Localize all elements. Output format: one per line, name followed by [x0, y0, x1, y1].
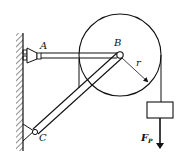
wall-hatching: [16, 33, 23, 151]
label-c: C: [39, 132, 47, 143]
pin-a: [37, 53, 41, 59]
pulley-frame-diagram: A B C r FP: [0, 0, 186, 161]
support-a: [23, 48, 41, 63]
load-block: [147, 102, 173, 118]
support-a-bracket: [27, 48, 37, 63]
label-force: FP: [140, 132, 153, 144]
label-r: r: [136, 57, 142, 68]
label-a: A: [39, 40, 47, 51]
bar-cb: [33, 53, 122, 134]
radius-indicator: [122, 58, 148, 82]
label-force-sub: P: [147, 137, 153, 144]
pin-b: [117, 52, 123, 58]
label-b: B: [113, 37, 121, 48]
pin-c: [32, 129, 37, 134]
wall: [16, 33, 23, 151]
